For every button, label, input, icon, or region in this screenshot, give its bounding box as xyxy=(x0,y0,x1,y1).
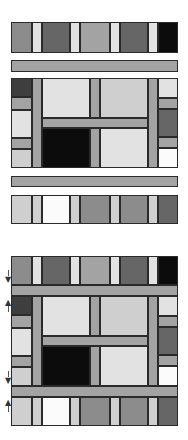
lower-panel-bottom-strip-cell xyxy=(11,397,32,426)
lower-panel-center-block xyxy=(90,346,100,386)
upper-panel-center-left-cell xyxy=(11,97,32,110)
arrow-shaft xyxy=(8,406,9,412)
upper-panel-top-strip-cell xyxy=(70,22,80,53)
upper-panel-top-strip-cell xyxy=(42,22,70,53)
upper-panel-center-right-cell xyxy=(158,109,178,137)
upper-panel-center-block xyxy=(100,128,148,168)
upper-panel-bottom-strip-cell xyxy=(42,195,70,224)
lower-panel-center-right-cell xyxy=(158,296,178,316)
lower-panel-top-strip-cell xyxy=(11,256,32,285)
arrow-shaft xyxy=(8,270,9,276)
upper-panel-top-strip-cell xyxy=(158,22,178,53)
lower-panel-center-left-cell xyxy=(11,296,32,315)
upper-panel-center-block xyxy=(42,78,90,118)
arrow-shaft xyxy=(8,306,9,312)
lower-panel-bottom-strip-cell xyxy=(32,397,42,426)
upper-panel-center-block xyxy=(148,78,158,168)
lower-panel-center-block xyxy=(100,346,148,386)
upper-panel-center-left-cell xyxy=(11,110,32,138)
arrow-down-icon: ▼ xyxy=(5,276,11,284)
upper-panel-center-block xyxy=(32,78,42,168)
lower-panel-bottom-strip-cell xyxy=(42,397,70,426)
upper-panel-center-right-cell xyxy=(158,137,178,148)
upper-panel-center-left-cell xyxy=(11,149,32,168)
upper-panel-bottom-strip-cell xyxy=(32,195,42,224)
upper-panel-top-strip-cell xyxy=(80,22,110,53)
lower-panel-top-strip-cell xyxy=(148,256,158,285)
lower-panel-top-strip-cell xyxy=(80,256,110,285)
lower-panel-top-strip-cell xyxy=(120,256,148,285)
upper-panel-center-left-cell xyxy=(11,78,32,97)
lower-panel-center-right-cell xyxy=(158,327,178,355)
lower-panel-center-block xyxy=(42,346,90,386)
upper-panel-bottom-strip-cell xyxy=(110,195,120,224)
lower-panel-top-strip-cell xyxy=(158,256,178,285)
lower-panel-center-block xyxy=(90,296,100,336)
upper-panel-center-right-cell xyxy=(158,78,178,98)
lower-panel-center-block xyxy=(42,336,148,346)
upper-panel-bottom-strip-cell xyxy=(158,195,178,224)
upper-panel-center-block xyxy=(42,118,148,128)
lower-panel-center-left-cell xyxy=(11,356,32,367)
lower-panel-center-right-cell xyxy=(158,316,178,327)
lower-panel-top-strip-cell xyxy=(70,256,80,285)
lower-panel-center-block xyxy=(100,296,148,336)
upper-panel-bottom-strip-cell xyxy=(148,195,158,224)
lower-panel-bottom-strip-cell xyxy=(110,397,120,426)
lower-panel-top-strip-cell xyxy=(110,256,120,285)
upper-panel-sash-top xyxy=(11,60,178,72)
lower-panel-center-block xyxy=(148,296,158,386)
lower-panel-bottom-strip-cell xyxy=(148,397,158,426)
lower-panel-center-block xyxy=(32,296,42,386)
upper-panel-center-block xyxy=(100,78,148,118)
lower-panel-bottom-strip-cell xyxy=(120,397,148,426)
upper-panel-center-block xyxy=(90,128,100,168)
upper-panel-top-strip-cell xyxy=(120,22,148,53)
lower-panel-center-right-cell xyxy=(158,366,178,386)
lower-panel-center-left-cell xyxy=(11,328,32,356)
upper-panel-bottom-strip-cell xyxy=(70,195,80,224)
arrow-shaft xyxy=(8,371,9,377)
lower-panel-center-left-cell xyxy=(11,315,32,328)
upper-panel-center-right-cell xyxy=(158,148,178,168)
upper-panel-top-strip-cell xyxy=(32,22,42,53)
upper-panel-sash-bottom xyxy=(11,176,178,187)
lower-panel-center-right-cell xyxy=(158,355,178,366)
upper-panel-bottom-strip-cell xyxy=(80,195,110,224)
lower-panel-top-strip-cell xyxy=(42,256,70,285)
upper-panel-top-strip-cell xyxy=(110,22,120,53)
lower-panel-bottom-strip-cell xyxy=(70,397,80,426)
upper-panel-center-left-cell xyxy=(11,138,32,149)
upper-panel-top-strip-cell xyxy=(11,22,32,53)
lower-panel-center-left-cell xyxy=(11,367,32,386)
upper-panel-bottom-strip-cell xyxy=(11,195,32,224)
lower-panel-sash-bottom xyxy=(11,386,178,397)
upper-panel-center-right-cell xyxy=(158,98,178,109)
upper-panel-top-strip-cell xyxy=(148,22,158,53)
lower-panel-top-strip-cell xyxy=(32,256,42,285)
upper-panel-bottom-strip-cell xyxy=(120,195,148,224)
arrow-down-icon: ▼ xyxy=(5,377,11,385)
upper-panel-center-block xyxy=(42,128,90,168)
lower-panel-sash-top xyxy=(11,285,178,296)
upper-panel-center-block xyxy=(90,78,100,118)
lower-panel-bottom-strip-cell xyxy=(158,397,178,426)
lower-panel-bottom-strip-cell xyxy=(80,397,110,426)
lower-panel-center-block xyxy=(42,296,90,336)
